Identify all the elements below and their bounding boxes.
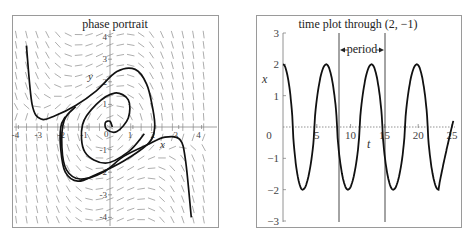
time-plot-chart: 0510152025321−1−2−3 period time plot thr… [245, 0, 471, 239]
svg-text:1: 1 [128, 130, 133, 140]
period-label: period [347, 42, 378, 56]
svg-text:0: 0 [266, 129, 272, 141]
y-axis-label: x [261, 72, 268, 86]
svg-text:-3: -3 [35, 130, 43, 140]
svg-text:-4: -4 [100, 212, 108, 222]
svg-text:3: 3 [274, 27, 280, 39]
svg-text:4: 4 [103, 32, 108, 42]
phase-portrait-chart: -4-3-2-1012344321-1-2-3-4 phase portrait… [0, 0, 235, 239]
svg-text:1: 1 [103, 99, 108, 109]
svg-text:10: 10 [345, 129, 357, 141]
chart-title: time plot through (2, −1) [298, 17, 417, 31]
y-axis-label: y [87, 70, 93, 82]
svg-text:-1: -1 [100, 145, 108, 155]
svg-text:-4: -4 [12, 130, 20, 140]
svg-text:3: 3 [103, 54, 108, 64]
svg-text:−3: −3 [267, 215, 279, 227]
svg-text:-3: -3 [100, 190, 108, 200]
svg-text:4: 4 [196, 130, 201, 140]
phase-portrait-panel: -4-3-2-1012344321-1-2-3-4 phase portrait… [0, 0, 235, 239]
x-axis-label: x [159, 138, 165, 150]
svg-text:2: 2 [274, 58, 280, 70]
time-plot-panel: 0510152025321−1−2−3 period time plot thr… [245, 0, 471, 239]
svg-text:1: 1 [274, 90, 280, 102]
svg-text:−1: −1 [267, 152, 279, 164]
chart-title: phase portrait [82, 17, 148, 31]
plot-frame [13, 16, 219, 228]
svg-text:20: 20 [413, 129, 425, 141]
svg-text:−2: −2 [267, 184, 279, 196]
